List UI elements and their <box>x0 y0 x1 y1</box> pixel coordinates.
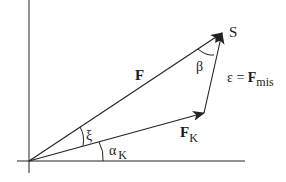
angle-beta-label: β <box>196 59 203 74</box>
angle-arc-beta <box>198 49 214 55</box>
point-S-label: S <box>229 24 237 40</box>
angle-arc-xi <box>80 127 84 146</box>
angle-xi-label: ξ <box>86 128 92 143</box>
angle-arc-alpha <box>99 142 103 161</box>
vector-F-K <box>29 113 204 161</box>
vector-epsilon <box>204 33 222 113</box>
force-vector-diagram: S β ε = Fmis F FK ξ αK <box>0 0 286 182</box>
angle-alpha-K-label: αK <box>109 143 127 162</box>
vector-F-K-label: FK <box>180 124 198 145</box>
vector-F-label: F <box>135 67 144 83</box>
epsilon-label: ε = Fmis <box>227 70 274 89</box>
